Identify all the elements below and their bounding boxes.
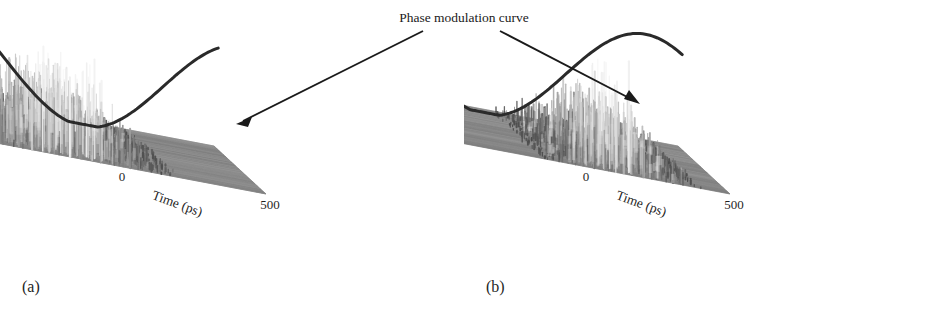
plot-panel-a: 51015×10⁻³Intensity (a.u.)01000200030004… xyxy=(0,0,464,313)
figure-container: 51015×10⁻³Intensity (a.u.)01000200030004… xyxy=(0,0,928,313)
x-axis-title: Time (ps) xyxy=(614,188,668,220)
surface-plot-a: 51015×10⁻³Intensity (a.u.)01000200030004… xyxy=(0,0,464,313)
x-axis-title: Time (ps) xyxy=(150,188,204,220)
x-tick-label: 0 xyxy=(119,169,126,184)
x-tick-label: 0 xyxy=(583,169,590,184)
panel-label-b: (b) xyxy=(486,278,505,296)
x-tick-label: 500 xyxy=(260,197,280,212)
surface-plot-b: 0.010.020.03Intensity (a.u.)010002000300… xyxy=(464,0,928,313)
panel-label-a: (a) xyxy=(22,278,40,296)
plot-panel-b: 0.010.020.03Intensity (a.u.)010002000300… xyxy=(464,0,928,313)
x-tick-label: 500 xyxy=(724,197,744,212)
